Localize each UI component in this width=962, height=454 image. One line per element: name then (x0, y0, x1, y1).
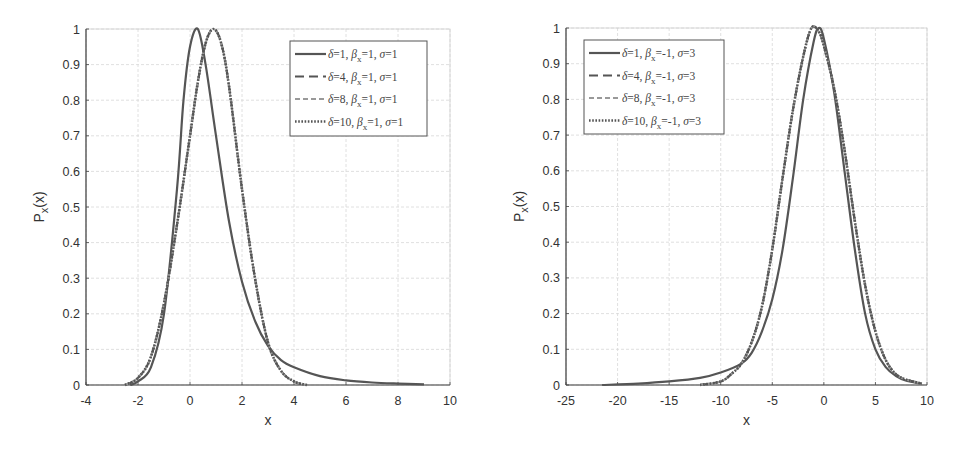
x-axis-label: x (743, 412, 750, 428)
y-tick-label: 0.4 (63, 236, 80, 250)
x-axis-label: x (265, 412, 272, 428)
x-tick-label: -5 (767, 394, 778, 408)
x-tick-label: 6 (343, 394, 350, 408)
x-tick-label: 2 (239, 394, 246, 408)
x-tick-label: -20 (609, 394, 627, 408)
x-tick-label: 10 (920, 394, 934, 408)
y-tick-label: 0.5 (63, 201, 80, 215)
series-line-dotted (700, 26, 922, 385)
chart-panel-right: -25-20-15-10-5051000.10.20.30.40.50.60.7… (511, 22, 934, 429)
x-tick-label: -25 (557, 394, 575, 408)
x-tick-label: -10 (712, 394, 730, 408)
x-tick-label: 5 (872, 394, 879, 408)
y-axis-label: Px(x) (31, 191, 50, 222)
legend: δ=1, βx=-1, σ=3δ=4, βx=-1, σ=3δ=8, βx=-1… (584, 40, 724, 134)
y-tick-label: 0.8 (543, 93, 560, 107)
x-tick-label: -4 (80, 394, 91, 408)
y-tick-label: 0.7 (543, 129, 560, 143)
y-tick-label: 0.2 (543, 307, 560, 321)
y-tick-label: 0.1 (543, 343, 560, 357)
y-tick-label: 0.9 (63, 58, 80, 72)
y-tick-label: 0.4 (543, 236, 560, 250)
x-tick-label: 0 (820, 394, 827, 408)
chart-panel-left: -4-2024681000.10.20.30.40.50.60.70.80.91… (31, 23, 457, 429)
figure: -4-2024681000.10.20.30.40.50.60.70.80.91… (0, 0, 962, 454)
y-tick-label: 1 (553, 22, 560, 36)
y-tick-label: 1 (73, 23, 80, 37)
y-tick-label: 0.6 (63, 165, 80, 179)
x-tick-label: -15 (660, 394, 678, 408)
legend: δ=1, βx=1, σ=1δ=4, βx=1, σ=1δ=8, βx=1, σ… (290, 41, 427, 136)
y-tick-label: 0.3 (543, 271, 560, 285)
y-tick-label: 0.5 (543, 200, 560, 214)
y-tick-label: 0.7 (63, 129, 80, 143)
y-tick-label: 0.8 (63, 94, 80, 108)
x-tick-label: -2 (132, 394, 143, 408)
y-tick-label: 0 (73, 379, 80, 393)
x-tick-label: 4 (291, 394, 298, 408)
y-tick-label: 0 (553, 379, 560, 393)
x-tick-label: 10 (443, 394, 457, 408)
series-line-dash-long (700, 26, 922, 385)
y-tick-label: 0.9 (543, 57, 560, 71)
x-tick-label: 8 (395, 394, 402, 408)
x-tick-label: 0 (187, 394, 194, 408)
y-tick-label: 0.3 (63, 272, 80, 286)
y-tick-label: 0.6 (543, 164, 560, 178)
y-tick-label: 0.2 (63, 307, 80, 321)
y-tick-label: 0.1 (63, 343, 80, 357)
series-line-dash-short (700, 26, 922, 385)
y-axis-label: Px(x) (511, 191, 530, 222)
